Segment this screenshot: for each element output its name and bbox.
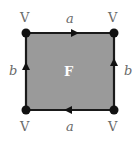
vertex-dot <box>22 106 31 115</box>
face-label: F <box>64 64 74 79</box>
vertex-label-top-right: V <box>107 10 118 25</box>
edge-label-top: a <box>66 11 74 26</box>
edge-label-left: b <box>9 63 17 78</box>
edge-label-right: b <box>124 63 132 78</box>
vertex-label-bottom-right: V <box>107 119 118 134</box>
edge-label-bottom: a <box>66 119 74 134</box>
vertex-dot <box>22 29 31 38</box>
vertex-label-top-left: V <box>19 10 30 25</box>
vertex-dot <box>110 29 119 38</box>
vertex-dot <box>110 106 119 115</box>
square-edge-identification-diagram: V V V V a a b b F <box>0 0 140 141</box>
vertex-label-bottom-left: V <box>19 119 30 134</box>
